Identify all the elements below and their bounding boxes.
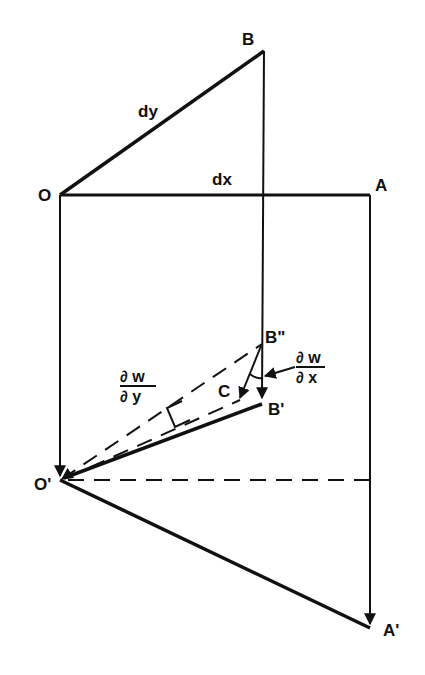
edge-o-prime-b-prime <box>64 404 262 478</box>
label-a: A <box>375 176 387 195</box>
edge-ob <box>60 51 264 195</box>
label-dy: dy <box>138 102 158 121</box>
fraction-dw-dy-numerator: ∂ w <box>120 368 145 385</box>
arrow-b-double-prime-to-c <box>240 346 261 398</box>
deformation-diagram: O A B dy dx O' A' B" B' C ∂ w ∂ x ∂ w ∂ … <box>0 0 425 675</box>
label-b-prime: B' <box>268 400 284 419</box>
label-o: O <box>38 186 51 205</box>
label-b-double-prime: B" <box>265 328 285 347</box>
dashed-o-prime-c <box>66 400 240 478</box>
angle-arc <box>250 374 262 378</box>
arrow-b-to-b-prime <box>262 51 264 398</box>
fraction-dw-dy-denominator: ∂ y <box>120 388 141 405</box>
fraction-dw-dx-denominator: ∂ x <box>296 369 317 386</box>
label-b: B <box>242 30 254 49</box>
label-dx: dx <box>212 170 232 189</box>
edge-o-prime-a-prime <box>60 480 370 628</box>
dashed-o-prime-b-double-prime <box>62 344 262 479</box>
label-c: C <box>218 382 230 401</box>
label-o-prime: O' <box>34 475 51 494</box>
label-a-prime: A' <box>383 621 399 640</box>
fraction-dw-dx-numerator: ∂ w <box>296 349 321 366</box>
pointer-dw-dx <box>265 367 295 376</box>
